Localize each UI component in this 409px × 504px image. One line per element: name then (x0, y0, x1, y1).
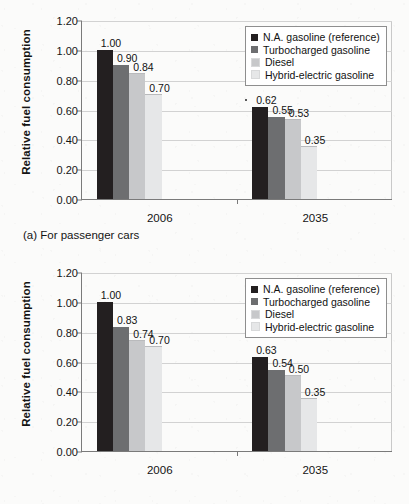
y-axis-tick-label: 0.00 (57, 194, 78, 206)
bar: 0.90 (113, 65, 129, 199)
legend-item-label: N.A. gasoline (reference) (263, 31, 380, 43)
legend-item: Turbocharged gasoline (251, 44, 380, 57)
y-axis-tick-label: 0.60 (57, 357, 78, 369)
legend-item: Hybrid-electric gasoline (251, 69, 380, 82)
bar: 0.84 (129, 73, 145, 199)
chart-light-trucks: Relative fuel consumption 0.000.200.400.… (0, 252, 409, 477)
bar: 0.35 (301, 398, 317, 451)
legend-item: Diesel (251, 308, 380, 321)
legend-swatch-icon (251, 298, 258, 305)
chart-legend-a: N.A. gasoline (reference)Turbocharged ga… (245, 26, 387, 86)
bar: 0.62 (252, 107, 268, 199)
bar-value-label: 0.83 (117, 314, 137, 326)
y-axis-tick-label: 0.20 (57, 164, 78, 176)
y-axis-tick-label: 0.40 (57, 134, 78, 146)
y-axis-tick-label: 1.20 (57, 15, 78, 27)
bar: 0.70 (145, 346, 161, 451)
legend-item-label: Diesel (265, 308, 294, 320)
caption-panel-a: (a) For passenger cars (23, 229, 139, 241)
bar: 0.55 (268, 117, 284, 199)
x-axis-category-label: 2006 (147, 212, 173, 224)
y-axis-tick-label: 0.20 (57, 416, 78, 428)
bar: 1.00 (97, 50, 113, 199)
gridline (82, 21, 392, 22)
x-axis-mid-tick-a (237, 199, 238, 204)
bar: 1.00 (97, 302, 113, 451)
bar: 0.74 (129, 340, 145, 451)
legend-item: N.A. gasoline (reference) (251, 31, 380, 44)
bar-value-label: 0.50 (289, 363, 309, 375)
figure-panel-b: Relative fuel consumption 0.000.200.400.… (0, 252, 409, 504)
legend-item-label: Hybrid-electric gasoline (265, 321, 374, 333)
scan-speck (245, 99, 247, 101)
x-axis-category-label: 2035 (302, 464, 328, 476)
y-axis-tick-label: 1.20 (57, 267, 78, 279)
legend-swatch-icon (251, 34, 258, 41)
legend-item-label: Turbocharged gasoline (263, 296, 370, 308)
legend-swatch-icon (251, 58, 260, 67)
legend-swatch-icon (251, 322, 260, 331)
y-axis-label-a: Relative fuel consumption (20, 12, 32, 192)
legend-swatch-icon (251, 70, 260, 79)
gridline (82, 273, 392, 274)
y-axis-tick-label: 0.40 (57, 386, 78, 398)
bar: 0.53 (285, 119, 301, 199)
y-axis-tick-label: 0.80 (57, 327, 78, 339)
legend-item-label: N.A. gasoline (reference) (263, 283, 380, 295)
bar-value-label: 0.84 (133, 61, 153, 73)
bar: 0.50 (285, 375, 301, 451)
legend-item-label: Diesel (265, 56, 294, 68)
y-axis-tick-label: 1.00 (57, 45, 78, 57)
bar: 0.70 (145, 94, 161, 199)
y-axis-tick-label: 0.80 (57, 75, 78, 87)
chart-passenger-cars: Relative fuel consumption 0.000.200.400.… (0, 0, 409, 225)
legend-item: Turbocharged gasoline (251, 296, 380, 309)
x-axis-category-label: 2035 (302, 212, 328, 224)
legend-swatch-icon (251, 310, 260, 319)
bar-value-label: 0.63 (256, 344, 276, 356)
legend-item-label: Hybrid-electric gasoline (265, 69, 374, 81)
legend-swatch-icon (251, 286, 258, 293)
bar-value-label: 0.70 (149, 334, 169, 346)
legend-item-label: Turbocharged gasoline (263, 44, 370, 56)
bar-value-label: 0.35 (305, 134, 325, 146)
bar: 0.83 (113, 327, 129, 451)
bar: 0.63 (252, 357, 268, 451)
bar-value-label: 0.53 (289, 107, 309, 119)
x-axis-category-label: 2006 (147, 464, 173, 476)
legend-item: N.A. gasoline (reference) (251, 283, 380, 296)
bar-value-label: 0.35 (305, 386, 325, 398)
y-axis-tick-label: 1.00 (57, 297, 78, 309)
bar-value-label: 0.70 (149, 82, 169, 94)
bar-value-label: 1.00 (101, 289, 121, 301)
y-axis-tick-label: 0.60 (57, 105, 78, 117)
bar: 0.54 (268, 370, 284, 451)
y-axis-tick-label: 0.00 (57, 446, 78, 458)
bar-value-label: 1.00 (101, 37, 121, 49)
legend-item: Hybrid-electric gasoline (251, 321, 380, 334)
legend-item: Diesel (251, 56, 380, 69)
figure-panel-a: Relative fuel consumption 0.000.200.400.… (0, 0, 409, 252)
x-axis-mid-tick-b (237, 451, 238, 456)
legend-swatch-icon (251, 46, 258, 53)
chart-legend-b: N.A. gasoline (reference)Turbocharged ga… (245, 278, 387, 338)
bar: 0.35 (301, 146, 317, 199)
y-axis-label-b: Relative fuel consumption (20, 264, 32, 444)
